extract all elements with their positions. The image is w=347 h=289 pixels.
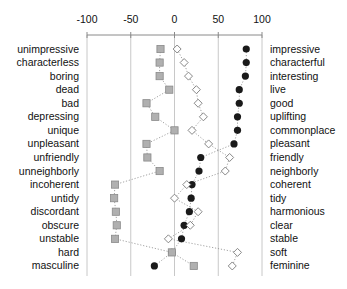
circle-marker [243, 59, 250, 66]
circle-marker [242, 73, 249, 80]
x-tick-label: 100 [253, 13, 271, 25]
diamond-marker [183, 181, 191, 189]
semantic-differential-chart: -100-50050100 unimpressivecharacterlessb… [0, 0, 347, 289]
square-marker [156, 73, 163, 80]
square-marker [143, 100, 150, 107]
square-marker [166, 86, 173, 93]
right-label: impressive [270, 43, 320, 55]
square-marker [157, 45, 164, 52]
diamond-marker [228, 262, 236, 270]
square-marker [152, 113, 159, 120]
diamond-marker [205, 140, 213, 148]
square-marker [190, 262, 197, 269]
right-label: uplifting [270, 110, 306, 122]
circle-marker [186, 208, 193, 215]
left-label: depressing [28, 110, 80, 122]
diamond-marker [226, 153, 234, 161]
left-label: hard [58, 246, 79, 258]
left-label: unpleasant [28, 137, 79, 149]
left-label: incoherent [30, 178, 79, 190]
right-label: good [270, 97, 294, 109]
square-marker [143, 140, 150, 147]
circle-marker [178, 235, 185, 242]
right-label: clear [270, 219, 293, 231]
left-label: boring [50, 70, 79, 82]
circle-marker [236, 86, 243, 93]
right-label: pleasant [270, 137, 310, 149]
diamond-marker [164, 235, 172, 243]
left-label: unique [47, 124, 79, 136]
diamond-marker [194, 99, 202, 107]
diamond-marker [194, 208, 202, 216]
left-label: dead [56, 83, 80, 95]
square-marker [156, 59, 163, 66]
x-tick-label: -100 [76, 13, 97, 25]
right-label: soft [270, 246, 287, 258]
series-markers [111, 45, 250, 270]
left-label: untidy [51, 192, 80, 204]
square-marker [111, 235, 118, 242]
right-label: friendly [270, 151, 305, 163]
circle-marker [236, 100, 243, 107]
square-marker [156, 167, 163, 174]
diamond-marker [192, 86, 200, 94]
x-axis: -100-50050100 [76, 13, 270, 38]
left-label: unneighborly [19, 165, 80, 177]
left-label: masculine [32, 259, 79, 271]
square-marker [144, 154, 151, 161]
left-label: unstable [39, 232, 79, 244]
right-label: harmonious [270, 205, 325, 217]
diamond-marker [185, 72, 193, 80]
x-tick-label: 50 [212, 13, 224, 25]
x-tick-label: -50 [123, 13, 138, 25]
square-marker [171, 127, 178, 134]
circle-marker [151, 262, 158, 269]
circle-marker [188, 195, 195, 202]
left-label: unfriendly [33, 151, 79, 163]
right-label: tidy [270, 192, 287, 204]
square-marker [111, 195, 118, 202]
square-marker [113, 222, 120, 229]
right-label: feminine [270, 259, 310, 271]
circle-marker [195, 167, 202, 174]
circle-marker [243, 45, 250, 52]
left-label: unimpressive [17, 43, 79, 55]
circle-marker [197, 154, 204, 161]
left-label: characterless [17, 56, 79, 68]
diamond-marker [186, 221, 194, 229]
right-label: commonplace [270, 124, 336, 136]
left-label: discordant [31, 205, 80, 217]
right-label: coherent [270, 178, 311, 190]
diamond-marker [234, 248, 242, 256]
diamond-marker [199, 113, 207, 121]
circle-marker [234, 127, 241, 134]
x-tick-label: 0 [172, 13, 178, 25]
right-label: interesting [270, 70, 319, 82]
left-label: bad [61, 97, 79, 109]
right-label: characterful [270, 56, 325, 68]
left-adjective-labels: unimpressivecharacterlessboringdeadbadde… [17, 43, 80, 272]
gray-square-line [114, 49, 194, 266]
square-marker [168, 249, 175, 256]
circle-marker [230, 140, 237, 147]
right-label: stable [270, 232, 298, 244]
right-label: live [270, 83, 286, 95]
circle-marker [234, 113, 241, 120]
diamond-marker [180, 59, 188, 67]
diamond-marker [221, 167, 229, 175]
right-label: neighborly [270, 165, 319, 177]
square-marker [111, 181, 118, 188]
left-label: obscure [42, 219, 80, 231]
square-marker [112, 208, 119, 215]
right-adjective-labels: impressivecharacterfulinterestinglivegoo… [270, 43, 336, 272]
diamond-marker [171, 194, 179, 202]
